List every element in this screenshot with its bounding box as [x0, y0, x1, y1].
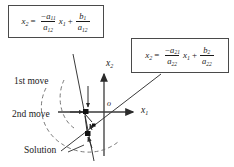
iteration-marker-2	[92, 124, 96, 127]
y-axis-label-sub: 2	[110, 63, 113, 69]
x-axis-label: x1	[141, 105, 148, 115]
inner-dashed-arc	[60, 80, 74, 128]
y-axis-label: x2	[106, 58, 113, 68]
figure-canvas: x2 = −a11 a12 x1 + b1 a12 x2 = −a21 a22 …	[0, 0, 234, 167]
outer-dashed-arc	[41, 88, 118, 152]
second-move-label: 2nd move	[12, 109, 50, 119]
solution-label: Solution	[24, 145, 56, 155]
origin-label: o	[107, 99, 111, 108]
first-move-label: 1st move	[14, 76, 49, 86]
iteration-marker-1	[83, 109, 89, 114]
x-axis-label-sub: 1	[145, 110, 148, 116]
solution-marker	[85, 131, 91, 136]
